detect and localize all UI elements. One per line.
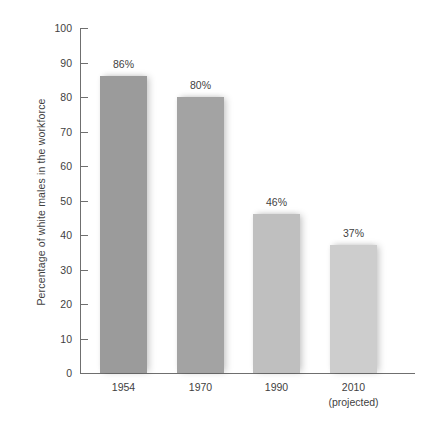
y-tick-20: 20: [80, 304, 88, 305]
y-tick-label: 40: [38, 227, 72, 243]
bar-1954: 86%: [100, 76, 147, 373]
y-tick-50: 50: [80, 201, 88, 202]
x-axis-sublabel-text: (projected): [299, 395, 409, 410]
y-tick-80: 80: [80, 97, 88, 98]
y-tick-70: 70: [80, 132, 88, 133]
y-tick-40: 40: [80, 235, 88, 236]
y-tick-label: 90: [38, 55, 72, 71]
y-tick-label: 20: [38, 296, 72, 312]
bar-value-label: 37%: [343, 227, 364, 239]
y-tick-100: 100: [80, 28, 88, 29]
y-tick-label: 80: [38, 89, 72, 105]
x-axis-label-text: 2010: [342, 381, 365, 393]
bar-value-label: 46%: [266, 196, 287, 208]
bar-value-label: 80%: [190, 79, 211, 91]
plot-area: 0102030405060708090100 86%80%46%37% 1954…: [80, 28, 415, 373]
y-tick-label: 30: [38, 262, 72, 278]
x-axis-label-text: 1990: [265, 381, 288, 393]
x-axis-label-text: 1954: [112, 381, 135, 393]
y-tick-label: 100: [38, 20, 72, 36]
y-tick-60: 60: [80, 166, 88, 167]
x-axis-label-2010: 2010(projected): [299, 380, 409, 410]
y-tick-label: 50: [38, 193, 72, 209]
bar-value-label: 86%: [113, 58, 134, 70]
y-tick-label: 70: [38, 124, 72, 140]
y-tick-30: 30: [80, 270, 88, 271]
bar-2010: 37%: [330, 245, 377, 373]
y-tick-label: 0: [38, 365, 72, 381]
y-tick-10: 10: [80, 339, 88, 340]
bar-1970: 80%: [177, 97, 224, 373]
bar-chart: Percentage of white males in the workfor…: [0, 0, 430, 431]
bar-1990: 46%: [253, 214, 300, 373]
x-axis-label-text: 1970: [189, 381, 212, 393]
y-tick-label: 60: [38, 158, 72, 174]
y-tick-0: 0: [80, 373, 88, 374]
y-tick-label: 10: [38, 331, 72, 347]
y-tick-90: 90: [80, 63, 88, 64]
x-axis-line: [80, 373, 415, 374]
